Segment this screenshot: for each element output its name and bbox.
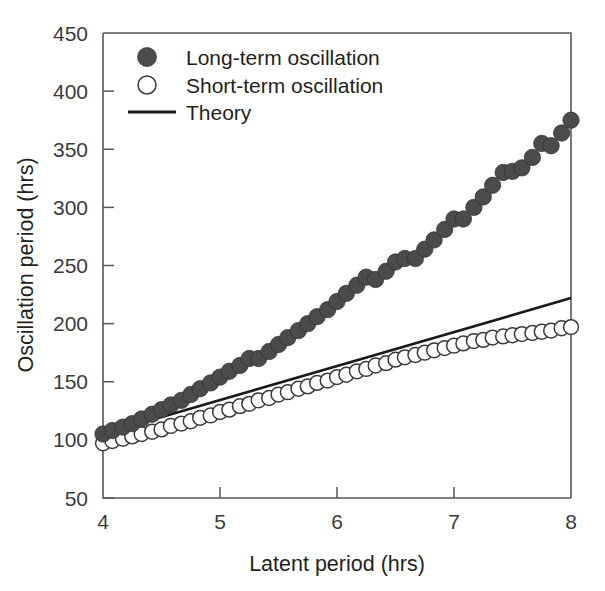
- figure-container: 50100150200250300350400450 45678 Long-te…: [0, 0, 605, 591]
- legend-label-short-term-oscillation: Short-term oscillation: [186, 74, 383, 97]
- y-tick-label-100: 100: [53, 428, 88, 451]
- y-axis-tick-labels: 50100150200250300350400450: [53, 22, 88, 510]
- data-point: [524, 149, 540, 165]
- y-tick-label-150: 150: [53, 370, 88, 393]
- y-tick-label-350: 350: [53, 138, 88, 161]
- legend-label-theory: Theory: [186, 101, 252, 124]
- x-tick-label-7: 7: [448, 510, 460, 533]
- x-tick-label-8: 8: [565, 510, 577, 533]
- legend-label-long-term-oscillation: Long-term oscillation: [186, 46, 380, 69]
- y-tick-label-400: 400: [53, 80, 88, 103]
- x-tick-label-4: 4: [97, 510, 109, 533]
- y-tick-label-300: 300: [53, 196, 88, 219]
- y-tick-label-250: 250: [53, 254, 88, 277]
- y-tick-label-200: 200: [53, 312, 88, 335]
- data-point: [564, 320, 579, 335]
- y-axis-label: Oscillation period (hrs): [14, 157, 38, 372]
- data-point: [563, 112, 579, 128]
- y-tick-label-50: 50: [65, 487, 88, 510]
- y-tick-label-450: 450: [53, 22, 88, 45]
- x-tick-label-5: 5: [214, 510, 226, 533]
- legend-marker-short-term-oscillation: [138, 76, 156, 94]
- x-tick-label-6: 6: [331, 510, 343, 533]
- oscillation-period-scatter-chart: 50100150200250300350400450 45678 Long-te…: [0, 0, 605, 591]
- legend-marker-long-term-oscillation: [138, 48, 157, 67]
- x-axis-label: Latent period (hrs): [249, 552, 425, 576]
